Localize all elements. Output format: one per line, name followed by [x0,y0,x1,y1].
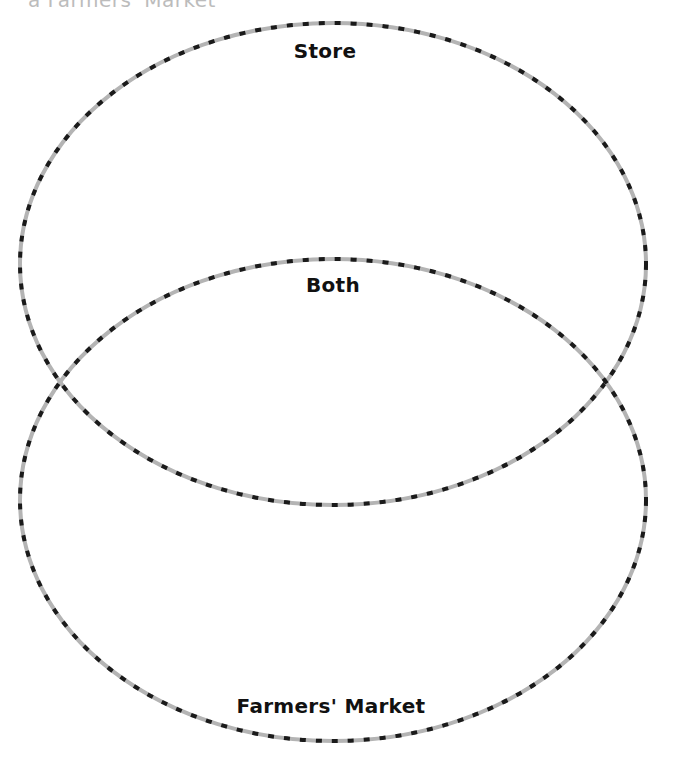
venn-diagram [0,0,678,772]
both-label: Both [306,273,360,297]
farmers-market-circle [20,259,646,741]
store-label: Store [294,39,357,63]
store-circle [20,23,646,505]
farmers-market-label: Farmers' Market [237,694,426,718]
